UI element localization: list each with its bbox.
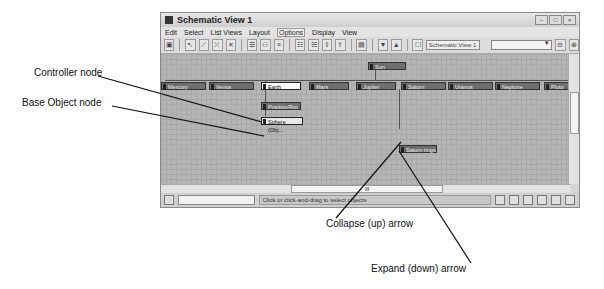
callout-leader-lines [0,0,604,289]
